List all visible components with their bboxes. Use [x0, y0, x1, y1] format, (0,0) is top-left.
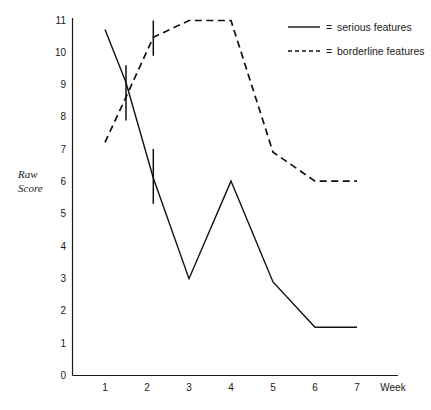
- legend-label-serious-features: serious features: [337, 21, 412, 33]
- x-tick-label: 4: [228, 382, 234, 393]
- chart-legend: = serious features = borderline features: [288, 21, 425, 57]
- legend-label-borderline-features: borderline features: [337, 45, 425, 57]
- y-axis-title-line2: Score: [18, 182, 43, 194]
- y-tick-label: 4: [60, 241, 66, 252]
- chart-container: 11 10 9 8 7 6 5 4 3 2 1 0 1 2 3 4 5 6 7 …: [0, 0, 431, 410]
- y-tick-label: 7: [60, 144, 66, 155]
- y-tick-label: 6: [60, 176, 66, 187]
- series-borderline-features-line: [105, 21, 357, 182]
- y-tick-label: 10: [55, 47, 67, 58]
- line-chart: 11 10 9 8 7 6 5 4 3 2 1 0 1 2 3 4 5 6 7 …: [0, 0, 431, 410]
- y-tick-label: 11: [56, 15, 67, 26]
- series-serious-features-line: [105, 30, 357, 328]
- y-axis-title-line1: Raw: [17, 168, 38, 180]
- y-tick-label: 3: [60, 273, 66, 284]
- legend-equals-serious: =: [326, 21, 332, 33]
- legend-equals-borderline: =: [326, 45, 332, 57]
- x-tick-label: 7: [354, 382, 360, 393]
- x-axis-title: Week: [380, 382, 406, 393]
- y-tick-label: 2: [60, 305, 66, 316]
- x-tick-label: 6: [312, 382, 318, 393]
- x-tick-label: 1: [102, 382, 108, 393]
- y-tick-label: 5: [60, 208, 66, 219]
- y-tick-label: 1: [60, 338, 66, 349]
- x-tick-label: 3: [186, 382, 192, 393]
- y-tick-label: 8: [60, 111, 66, 122]
- x-tick-label: 2: [144, 382, 150, 393]
- x-tick-label: 5: [270, 382, 276, 393]
- x-axis-tick-labels: 1 2 3 4 5 6 7: [102, 382, 360, 393]
- y-tick-label: 9: [60, 79, 66, 90]
- y-tick-label: 0: [60, 370, 66, 381]
- y-axis-tick-labels: 11 10 9 8 7 6 5 4 3 2 1 0: [55, 15, 67, 381]
